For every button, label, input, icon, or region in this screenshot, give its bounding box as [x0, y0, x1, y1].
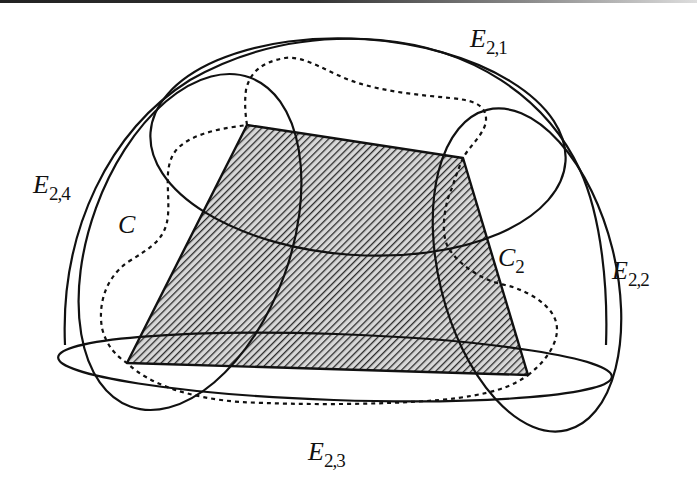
label-e23: E2,3: [308, 439, 345, 470]
diagram-canvas: [0, 0, 697, 489]
label-e21: E2,1: [470, 26, 507, 57]
label-e24: E2,4: [33, 172, 70, 203]
label-e22: E2,2: [612, 258, 649, 289]
label-c: C: [118, 212, 135, 238]
diagram-figure: E2,1 E2,2 E2,3 E2,4 C C2: [0, 0, 697, 489]
shaded-region-c2: [127, 125, 528, 375]
label-c2: C2: [498, 245, 524, 276]
